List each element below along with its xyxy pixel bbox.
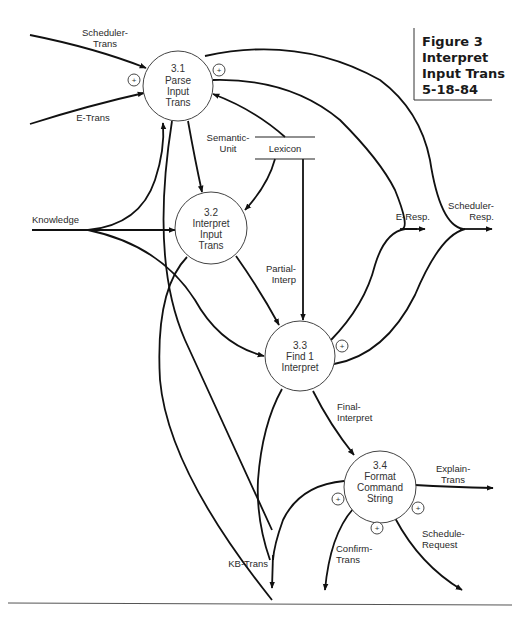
- label-explain-trans-1: Explain-: [436, 463, 470, 474]
- plus-icon: +: [128, 74, 140, 86]
- label-knowledge: Knowledge: [32, 214, 79, 225]
- svg-text:+: +: [416, 504, 421, 513]
- flow-3-1-to-e-resp: [213, 80, 417, 229]
- label-kb-trans: KB-Trans: [228, 558, 268, 569]
- figure-title-line-2: Interpret: [422, 50, 488, 65]
- process-label-line: Interpret: [192, 218, 229, 229]
- label-scheduler-resp-2: Resp.: [469, 211, 494, 222]
- flow-explain-trans: [415, 485, 493, 488]
- process-label-line: Interpret: [281, 362, 318, 373]
- label-partial-interp-1: Partial-: [266, 263, 296, 274]
- process-id: 3.1: [171, 63, 185, 74]
- label-scheduler-resp-1: Scheduler-: [448, 200, 494, 211]
- plus-icon: +: [336, 340, 348, 352]
- label-semantic-unit-2: Unit: [220, 143, 237, 154]
- flow-3-1-to-kb: [164, 121, 272, 530]
- figure-title-line-3: Input Trans: [422, 66, 505, 81]
- svg-text:+: +: [217, 66, 222, 75]
- label-semantic-unit-1: Semantic-: [207, 132, 250, 143]
- svg-text:+: +: [336, 495, 341, 504]
- process-label-line: String: [367, 493, 393, 504]
- label-confirm-trans-1: Confirm-: [336, 543, 372, 554]
- plus-icon: +: [213, 64, 225, 76]
- process-3-1: 3.1 Parse Input Trans: [143, 51, 213, 121]
- process-label-line: Input: [200, 229, 222, 240]
- flow-semantic-unit: [213, 94, 285, 137]
- label-final-interpret-1: Final-: [337, 401, 361, 412]
- process-label-line: Parse: [165, 75, 192, 86]
- process-3-4: 3.4 Format Command String: [344, 451, 416, 523]
- figure-title-box: Figure 3 Interpret Input Trans 5-18-84: [414, 28, 505, 100]
- process-id: 3.3: [293, 340, 307, 351]
- bottom-rule: [8, 603, 512, 605]
- process-label-line: Trans: [198, 240, 223, 251]
- label-explain-trans-2: Trans: [441, 474, 465, 485]
- svg-text:+: +: [132, 76, 137, 85]
- label-e-trans: E-Trans: [76, 112, 110, 123]
- process-3-3: 3.3 Find 1 Interpret: [265, 321, 335, 391]
- figure-title-line-4: 5-18-84: [422, 82, 478, 97]
- label-partial-interp-2: Interp: [272, 274, 296, 285]
- process-label-line: Format: [364, 471, 396, 482]
- process-label-line: Input: [167, 86, 189, 97]
- data-flow-diagram: Figure 3 Interpret Input Trans 5-18-84: [0, 0, 525, 621]
- process-3-2: 3.2 Interpret Input Trans: [175, 192, 247, 264]
- process-label-line: Command: [357, 482, 403, 493]
- plus-icon: +: [371, 522, 383, 534]
- label-schedule-request-2: Request: [422, 539, 458, 550]
- plus-icon: +: [332, 493, 344, 505]
- svg-text:+: +: [375, 524, 380, 533]
- label-e-resp: E-Resp.: [396, 211, 430, 222]
- label-final-interpret-2: Interpret: [337, 412, 373, 423]
- flow-scheduler-trans: [30, 35, 146, 68]
- flow-3-3-to-scheduler-resp: [334, 229, 465, 364]
- plus-icon: +: [412, 502, 424, 514]
- flow-knowledge-to-3-1: [88, 123, 163, 230]
- lexicon-label: Lexicon: [269, 143, 302, 154]
- label-scheduler-trans-2: Trans: [93, 38, 117, 49]
- process-id: 3.4: [373, 460, 387, 471]
- label-scheduler-trans-1: Scheduler-: [82, 27, 128, 38]
- flow-kb-trans-out: [272, 555, 273, 588]
- flow-3-3-to-e-resp: [331, 229, 405, 340]
- flow-3-1-to-3-2: [188, 121, 202, 192]
- svg-text:+: +: [340, 342, 345, 351]
- flow-3-2-to-kb: [159, 257, 272, 600]
- figure-title-line-1: Figure 3: [422, 34, 483, 49]
- label-confirm-trans-2: Trans: [336, 554, 360, 565]
- process-label-line: Trans: [165, 97, 190, 108]
- data-store-lexicon: Lexicon: [255, 137, 315, 159]
- process-id: 3.2: [204, 207, 218, 218]
- flow-lexicon-to-3-2: [245, 159, 275, 210]
- process-label-line: Find 1: [286, 351, 314, 362]
- label-schedule-request-1: Schedule-: [422, 528, 465, 539]
